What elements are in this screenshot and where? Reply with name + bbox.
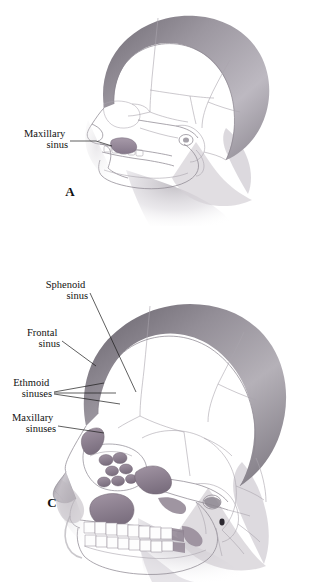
ethmoid-sinuses-region <box>98 453 137 488</box>
label-line: sinus <box>66 290 88 301</box>
label-sphenoid-sinus-text: Sphenoid sinus <box>46 279 88 301</box>
panel-a-infant-skull: Maxillary sinus A <box>0 0 317 240</box>
figure-root: Maxillary sinus A <box>0 0 317 584</box>
label-ethmoid-sinuses-text: Ethmoid sinuses <box>13 377 52 399</box>
leader-line-frontal-sinus <box>62 341 96 366</box>
label-line: sinuses <box>26 423 56 434</box>
panel-c-illustration: Sphenoid sinus Frontal sinus Ethmoid <box>0 250 317 584</box>
frontal-sinus-region <box>81 428 104 455</box>
label-line: Maxillary <box>12 412 54 423</box>
label-frontal-sinus: Frontal sinus <box>27 327 96 366</box>
panel-a-illustration: Maxillary sinus A <box>0 0 317 240</box>
label-line: Sphenoid <box>46 279 86 290</box>
label-line: sinus <box>46 139 68 150</box>
label-line: Ethmoid <box>13 377 50 388</box>
panel-letter-c: C <box>47 495 56 510</box>
maxillary-sinus-region-c <box>90 494 134 527</box>
label-line: sinus <box>38 338 60 349</box>
panel-letter-a: A <box>65 184 75 199</box>
label-line: Frontal <box>27 327 57 338</box>
label-maxillary-sinus-a-text: Maxillary sinus <box>24 128 68 150</box>
sphenoid-sinus-region <box>135 466 172 494</box>
label-line: Maxillary <box>24 128 66 139</box>
maxillary-sinus-region-a <box>111 138 137 154</box>
dentition-c <box>84 522 185 553</box>
label-frontal-sinus-text: Frontal sinus <box>27 327 60 349</box>
panel-c-adult-skull: Sphenoid sinus Frontal sinus Ethmoid <box>0 250 317 584</box>
label-line: sinuses <box>22 388 52 399</box>
label-maxillary-sinuses-c-text: Maxillary sinuses <box>12 412 56 434</box>
